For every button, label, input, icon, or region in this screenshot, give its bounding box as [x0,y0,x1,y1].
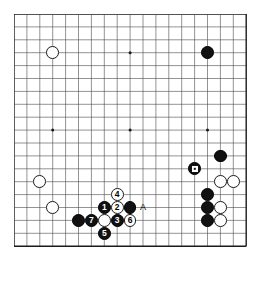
go-stone-white-move-6[interactable]: 6 [124,214,137,227]
go-stone-white[interactable] [214,175,227,188]
go-stone-black-move-7[interactable]: 7 [85,214,98,227]
go-stone-white[interactable] [46,201,59,214]
go-point-label-a: A [140,203,146,212]
go-stone-move-number: 5 [99,228,110,239]
go-stone-square-marker-icon [192,166,198,172]
go-stone-black[interactable] [72,214,85,227]
go-stone-white[interactable] [98,214,111,227]
go-stone-black[interactable] [201,214,214,227]
go-diagram-root: 7124365 A [0,0,277,289]
go-stone-black-move-5[interactable]: 5 [98,227,111,240]
go-stone-black-move-3[interactable]: 3 [111,214,124,227]
go-stone-white-move-4[interactable]: 4 [111,188,124,201]
go-stone-black[interactable] [201,201,214,214]
go-stone-white[interactable] [227,175,240,188]
go-stone-move-number: 1 [99,202,110,213]
go-stone-white[interactable] [214,201,227,214]
go-stone-white[interactable] [214,214,227,227]
go-stone-black-move-1[interactable]: 1 [98,201,111,214]
go-stone-move-number: 2 [112,202,123,213]
go-stone-marker-dot-icon [193,168,195,170]
go-stone-move-number: 3 [112,215,123,226]
go-stone-move-number: 4 [112,189,123,200]
go-stone-black[interactable] [201,188,214,201]
go-stone-white-move-2[interactable]: 2 [111,201,124,214]
go-stone-black[interactable] [214,150,227,163]
go-stone-move-number: 6 [125,215,136,226]
go-stone-move-number: 7 [86,215,97,226]
go-stone-black[interactable] [201,46,214,59]
